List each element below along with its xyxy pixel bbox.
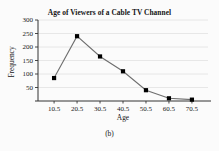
x-tick-label: 40.5 — [117, 105, 130, 113]
x-tick-label: 10.5 — [48, 105, 61, 113]
data-point-marker — [190, 98, 194, 102]
y-axis-ticks-group: 50100150200250300 — [23, 16, 39, 92]
x-tick-label: 60.5 — [163, 105, 176, 113]
x-axis-ticks-group: 10.520.530.540.550.560.570.5 — [48, 101, 199, 113]
y-tick-label: 300 — [23, 16, 34, 24]
y-tick-label: 100 — [23, 70, 34, 78]
data-point-marker — [52, 76, 56, 80]
gridlines-group — [38, 20, 208, 88]
y-tick-label: 250 — [23, 30, 34, 38]
x-tick-label: 20.5 — [71, 105, 84, 113]
figure-container: Age of Viewers of a Cable TV Channel 501… — [0, 0, 219, 151]
data-point-marker — [144, 88, 148, 92]
data-point-markers-group — [52, 34, 194, 102]
x-axis-title: Age — [117, 113, 130, 122]
data-point-marker — [75, 34, 79, 38]
data-point-marker — [121, 69, 125, 73]
y-tick-label: 150 — [23, 57, 34, 65]
figure-caption: (b) — [0, 129, 219, 138]
x-tick-label: 30.5 — [94, 105, 107, 113]
data-point-marker — [98, 54, 102, 58]
x-tick-label: 70.5 — [186, 105, 199, 113]
data-point-marker — [167, 96, 171, 100]
y-tick-label: 50 — [26, 84, 34, 92]
x-tick-label: 50.5 — [140, 105, 153, 113]
data-series-line — [54, 36, 192, 99]
y-axis-title: Frequency — [7, 46, 16, 77]
y-tick-label: 200 — [23, 43, 34, 51]
